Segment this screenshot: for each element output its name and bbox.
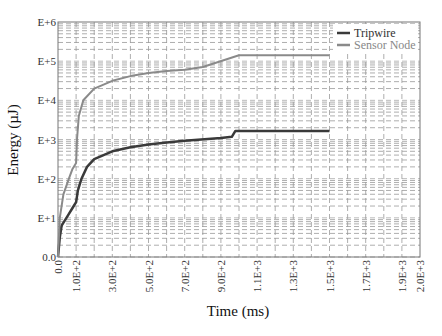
y-tick-label: E+5	[38, 55, 57, 67]
legend: Tripwire Sensor Node	[333, 24, 418, 52]
x-tick-label: 7.0E+2	[179, 260, 191, 292]
x-tick-label: 1.5E+3	[324, 260, 336, 293]
y-axis-ticks: 0.0E+1E+2E+3E+4E+5E+6	[38, 16, 57, 263]
x-tick-label: 0.0	[52, 260, 64, 274]
y-tick-label: E+3	[38, 134, 57, 146]
chart: 0.0E+1E+2E+3E+4E+5E+6 0.01.0E+23.0E+25.0…	[0, 0, 442, 336]
x-tick-label: 5.0E+2	[143, 260, 155, 292]
y-tick-label: E+4	[38, 94, 57, 106]
x-tick-label: 1.0E+2	[70, 260, 82, 292]
x-axis-ticks: 0.01.0E+23.0E+25.0E+27.0E+29.0E+21.1E+31…	[52, 260, 426, 293]
x-tick-label: 9.0E+2	[215, 260, 227, 292]
x-tick-label: 1.1E+3	[251, 260, 263, 293]
y-tick-label: E+1	[38, 212, 56, 224]
legend-label-sensor-node: Sensor Node	[354, 38, 416, 52]
x-tick-label: 1.7E+3	[360, 260, 372, 293]
x-tick-label: 1.9E+3	[396, 260, 408, 293]
x-tick-label: 2.0E+3	[414, 260, 426, 293]
y-axis-title: Energy (µJ)	[5, 104, 22, 175]
x-tick-label: 3.0E+2	[106, 260, 118, 292]
y-tick-label: E+6	[38, 16, 57, 28]
y-tick-label: E+2	[38, 173, 56, 185]
x-tick-label: 1.3E+3	[287, 260, 299, 293]
grid	[58, 22, 420, 257]
x-axis-title: Time (ms)	[207, 303, 269, 320]
